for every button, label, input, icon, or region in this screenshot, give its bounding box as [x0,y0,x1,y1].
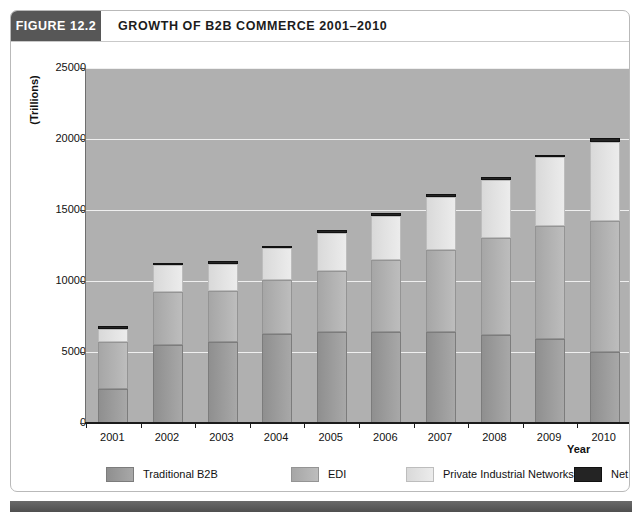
traditional-b2b-swatch [106,467,134,482]
private-industrial-networks-swatch [406,467,434,482]
bar-segment [153,265,183,292]
bar-segment [481,238,511,335]
bar-2007 [426,194,456,423]
bar-2008 [481,177,511,423]
bar-2006 [371,213,401,423]
x-tick-mark [250,423,251,428]
bar-segment [208,291,238,342]
figure-header: FIGURE 12.2 GROWTH OF B2B COMMERCE 2001–… [11,11,629,42]
bar-segment [208,342,238,423]
bar-2005 [317,230,347,423]
x-tick-label-2006: 2006 [355,431,415,443]
legend-label: Traditional B2B [143,468,218,480]
legend-label: Net Markets [611,468,630,480]
x-tick-mark [523,423,524,428]
x-tick-label-2004: 2004 [246,431,306,443]
x-tick-mark [86,423,87,428]
legend-label: EDI [328,468,346,480]
legend-item-private-industrial-networks: Private Industrial Networks [406,466,574,482]
bar-segment [590,221,620,352]
chart-area: (Trillions) 0500010000150002000025000 20… [11,42,629,492]
x-tick-mark [195,423,196,428]
bar-segment [481,177,511,180]
bar-2010 [590,138,620,423]
y-tick-label: 15000 [24,203,86,215]
x-tick-label-2003: 2003 [192,431,252,443]
x-axis-title: Year [567,443,590,455]
x-tick-label-2002: 2002 [137,431,197,443]
bar-segment [371,216,401,260]
bar-segment [262,280,292,334]
x-tick-mark [468,423,469,428]
x-tick-label-2007: 2007 [410,431,470,443]
x-tick-label-2005: 2005 [301,431,361,443]
x-tick-mark [141,423,142,428]
bar-segment [590,142,620,222]
bar-segment [317,233,347,271]
bar-segment [426,332,456,423]
bar-segment [535,155,565,158]
bar-segment [317,271,347,332]
edi-swatch [291,467,319,482]
legend-item-traditional-b2b: Traditional B2B [106,466,218,482]
bar-segment [590,138,620,142]
x-tick-mark [359,423,360,428]
y-axis-ticks: 0500010000150002000025000 [11,42,86,492]
bar-segment [262,248,292,279]
bar-segment [590,352,620,423]
legend-item-edi: EDI [291,466,346,482]
bar-segment [153,292,183,345]
bar-segment [371,332,401,423]
bar-segment [481,180,511,238]
bar-segment [535,339,565,423]
y-tick-label: 5000 [24,345,86,357]
bar-segment [371,213,401,216]
bar-segment [317,230,347,233]
footer-rule [10,501,632,512]
x-tick-label-2008: 2008 [465,431,525,443]
bar-2002 [153,263,183,423]
x-tick-label-2010: 2010 [574,431,630,443]
bar-segment [98,329,128,342]
bar-segment [317,332,347,423]
y-tick-label: 25000 [24,61,86,73]
chart-legend: Traditional B2BEDIPrivate Industrial Net… [86,466,630,486]
bar-2004 [262,246,292,424]
y-axis-line [85,68,86,423]
legend-item-net-markets: Net Markets [574,466,630,482]
bar-segment [153,263,183,266]
figure-number-tag: FIGURE 12.2 [11,11,101,41]
bar-segment [208,261,238,264]
bar-segment [535,157,565,225]
bar-segment [262,246,292,249]
bar-segment [535,226,565,340]
legend-label: Private Industrial Networks [443,468,574,480]
bar-segment [208,264,238,291]
bar-segment [98,389,128,423]
figure-title: GROWTH OF B2B COMMERCE 2001–2010 [101,11,629,41]
y-tick-label: 10000 [24,274,86,286]
x-tick-label-2001: 2001 [82,431,142,443]
figure-card: FIGURE 12.2 GROWTH OF B2B COMMERCE 2001–… [10,10,630,492]
x-tick-mark [577,423,578,428]
bar-2001 [98,326,128,423]
plot-region [86,68,630,423]
y-tick-label: 20000 [24,132,86,144]
bar-segment [98,342,128,389]
bar-segment [426,197,456,250]
x-tick-mark [414,423,415,428]
x-tick-mark [304,423,305,428]
net-markets-swatch [574,467,602,482]
bar-segment [481,335,511,423]
bar-2003 [208,261,238,423]
bar-series-group [86,68,630,423]
bar-segment [153,345,183,423]
x-axis-ticks: 2001200220032004200520062007200820092010 [85,423,630,451]
bar-segment [426,250,456,332]
bar-2009 [535,155,565,423]
bar-segment [371,260,401,332]
y-tick-label: 0 [24,416,86,428]
bar-segment [426,194,456,197]
bar-segment [98,326,128,329]
x-tick-label-2009: 2009 [519,431,579,443]
